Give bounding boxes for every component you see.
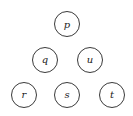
node-s: s (55, 83, 80, 108)
node-q: q (33, 48, 58, 73)
node-label: u (87, 54, 93, 65)
node-label: p (64, 19, 71, 30)
node-label: s (64, 89, 69, 100)
node-diagram: p q u r s t (0, 0, 133, 116)
node-u: u (78, 48, 103, 73)
node-r: r (12, 83, 37, 108)
node-t: t (100, 83, 125, 108)
node-p: p (55, 12, 80, 37)
node-label: q (42, 54, 48, 65)
